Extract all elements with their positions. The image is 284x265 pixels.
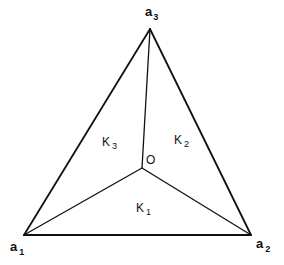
vertex-label-a3: a3 xyxy=(145,4,158,22)
triangle-diagram: a3 a1 a2 O K3 K2 K1 xyxy=(0,0,284,265)
region-label-k3: K3 xyxy=(102,135,117,151)
edge-o-a3 xyxy=(142,29,150,168)
edge-o-a1 xyxy=(24,168,142,235)
vertex-label-a1: a1 xyxy=(10,239,24,257)
region-label-k2: K2 xyxy=(174,133,189,149)
vertex-label-a2: a2 xyxy=(256,236,270,254)
edge-a3-a1 xyxy=(24,29,150,235)
center-label-o: O xyxy=(146,153,155,167)
region-label-k1: K1 xyxy=(136,201,151,217)
